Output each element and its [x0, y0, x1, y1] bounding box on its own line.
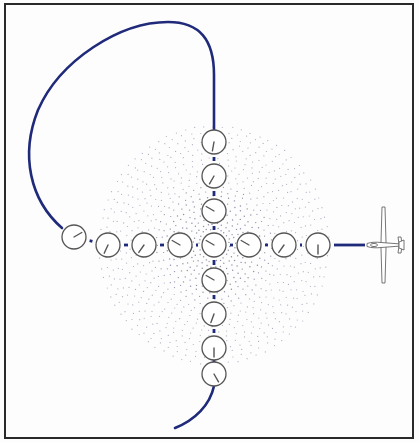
field-dot	[161, 211, 162, 212]
field-dot	[259, 235, 260, 236]
flight-path-tail	[175, 386, 214, 428]
field-dot	[226, 215, 227, 216]
field-dot	[143, 333, 144, 334]
field-dot	[152, 295, 153, 296]
field-dot	[161, 177, 162, 178]
field-dot	[152, 261, 153, 262]
field-dot	[193, 260, 194, 261]
field-dot	[303, 271, 304, 272]
field-dot	[192, 155, 193, 156]
field-dot	[111, 191, 112, 192]
field-dot	[177, 215, 178, 216]
field-dot	[297, 249, 298, 250]
field-dot	[280, 215, 281, 216]
field-dot	[208, 261, 209, 262]
field-dot	[199, 341, 200, 342]
field-dot	[266, 296, 267, 297]
field-dot	[237, 134, 238, 135]
field-dot	[180, 300, 181, 301]
field-dot	[249, 298, 250, 299]
field-dot	[242, 268, 243, 269]
field-dot	[298, 273, 299, 274]
field-dot	[128, 165, 129, 166]
field-dot	[206, 229, 207, 230]
field-dot	[265, 164, 266, 165]
field-dot	[174, 287, 175, 288]
gauge-vertical-2	[202, 199, 226, 223]
field-dot	[170, 274, 171, 275]
field-dot	[314, 286, 315, 287]
field-dot	[164, 214, 165, 215]
field-dot	[274, 233, 275, 234]
field-dot	[226, 340, 227, 341]
field-dot	[162, 237, 163, 238]
field-dot	[228, 198, 229, 199]
field-dot	[314, 219, 315, 220]
field-dot	[222, 127, 223, 128]
field-dot	[199, 199, 200, 200]
field-dot	[247, 178, 248, 179]
field-dot	[261, 266, 262, 267]
field-dot	[177, 346, 178, 347]
field-dot	[191, 196, 192, 197]
field-dot	[163, 252, 164, 253]
field-dot	[180, 219, 181, 220]
field-dot	[251, 227, 252, 228]
field-dot	[186, 169, 187, 170]
field-dot	[166, 235, 167, 236]
field-dot	[151, 220, 152, 221]
field-dot	[168, 317, 169, 318]
field-dot	[286, 212, 287, 213]
field-dot	[131, 280, 132, 281]
gauge-vertical-4	[202, 302, 226, 326]
field-dot	[167, 250, 168, 251]
field-dot	[151, 338, 152, 339]
field-dot	[282, 163, 283, 164]
field-dot	[117, 202, 118, 203]
field-dot	[242, 232, 243, 233]
field-dot	[129, 216, 130, 217]
field-dot	[126, 212, 127, 213]
field-dot	[103, 218, 104, 219]
field-dot	[137, 188, 138, 189]
field-dot	[139, 334, 140, 335]
field-dot	[199, 249, 200, 250]
field-dot	[286, 231, 287, 232]
field-dot	[196, 285, 197, 286]
field-dot	[130, 249, 131, 250]
field-dot	[207, 298, 208, 299]
field-dot	[252, 173, 253, 174]
field-dot	[310, 180, 311, 181]
field-dot	[197, 260, 198, 261]
field-dot	[131, 257, 132, 258]
field-dot	[244, 331, 245, 332]
field-dot	[181, 270, 182, 271]
field-dot	[169, 207, 170, 208]
field-dot	[154, 228, 155, 229]
field-dot	[261, 278, 262, 279]
field-dot	[155, 267, 156, 268]
field-dot	[146, 303, 147, 304]
field-dot	[223, 263, 224, 264]
field-dot	[289, 318, 290, 319]
field-dot	[263, 229, 264, 230]
field-dot	[251, 261, 252, 262]
field-dot	[101, 268, 102, 269]
field-dot	[280, 304, 281, 305]
field-dot	[297, 298, 298, 299]
field-dot	[186, 204, 187, 205]
field-dot	[273, 211, 274, 212]
field-dot	[163, 292, 164, 293]
field-dot	[237, 191, 238, 192]
field-dot	[260, 309, 261, 310]
field-dot	[251, 321, 252, 322]
field-dot	[107, 287, 108, 288]
field-dot	[135, 158, 136, 159]
field-dot	[194, 127, 195, 128]
field-dot	[258, 227, 259, 228]
gauge-vertical-6	[202, 362, 226, 386]
field-dot	[310, 225, 311, 226]
field-dot	[274, 345, 275, 346]
field-dot	[172, 201, 173, 202]
field-dot	[202, 164, 203, 165]
